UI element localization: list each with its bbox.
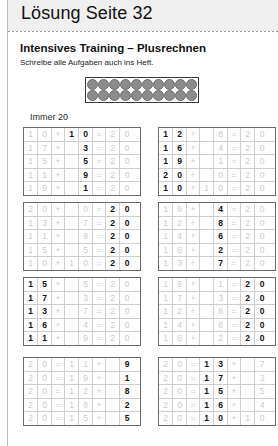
digit-cell: 6	[173, 203, 187, 216]
digit-cell: 2	[24, 399, 38, 412]
operator-cell: =	[187, 399, 200, 412]
digit-cell: 4	[255, 399, 269, 412]
task-grid-6: 19+1=2017+3=2012+8=2014+6=2018+2=20	[158, 277, 276, 346]
header-divider	[8, 31, 278, 32]
operator-cell: +	[187, 128, 200, 141]
operator-cell: +	[187, 203, 200, 216]
page-header: Lösung Seite 32	[8, 0, 278, 31]
digit-cell: 8	[214, 305, 228, 318]
digit-cell: 2	[241, 257, 255, 270]
digit-cell: 7	[79, 217, 93, 230]
digit-cell	[241, 399, 255, 412]
operator-cell: +	[52, 305, 65, 318]
operator-cell: =	[187, 385, 200, 398]
digit-cell: 3	[214, 292, 228, 305]
digit-cell	[65, 142, 79, 155]
digit-cell: 2	[214, 244, 228, 257]
digit-cell: 1	[159, 182, 173, 195]
digit-cell: 0	[120, 292, 134, 305]
digit-cell: 7	[38, 292, 52, 305]
digit-cell: 1	[159, 319, 173, 332]
digit-cell: 2	[159, 399, 173, 412]
digit-cell: 2	[106, 292, 120, 305]
table-row: 17+3=20	[24, 291, 140, 305]
digit-cell: 6	[38, 319, 52, 332]
table-row: 19+1=20	[24, 181, 140, 195]
digit-cell: 2	[106, 142, 120, 155]
operator-cell: =	[228, 257, 241, 270]
operator-cell: =	[52, 399, 65, 412]
operator-cell: =	[228, 292, 241, 305]
task-grid-7: 20=11+920=19+120=12+820=18+220=15+5	[23, 357, 141, 426]
digit-cell: 8	[173, 332, 187, 345]
digit-cell: 2	[106, 155, 120, 168]
digit-cell: 1	[24, 292, 38, 305]
digit-cell: 1	[159, 128, 173, 141]
digit-cell	[200, 305, 214, 318]
task-grid-1: 10+10=2017+3=2015+5=2011+9=2019+1=20	[23, 127, 141, 196]
digit-cell: 2	[241, 142, 255, 155]
digit-cell: 1	[24, 128, 38, 141]
digit-cell: 1	[159, 230, 173, 243]
operator-cell: +	[187, 244, 200, 257]
digit-cell: 2	[79, 385, 93, 398]
digit-cell: 2	[173, 217, 187, 230]
worksheet-subtitle: Intensives Training – Plusrechnen	[20, 42, 206, 54]
table-row: 18+2=20	[159, 243, 275, 257]
operator-cell: +	[52, 155, 65, 168]
table-row: 15+5=20	[24, 243, 140, 257]
digit-cell: 2	[106, 319, 120, 332]
table-row: 17+3=20	[159, 291, 275, 305]
digit-cell	[200, 332, 214, 345]
operator-cell: =	[93, 332, 106, 345]
digit-cell: 3	[173, 257, 187, 270]
digit-cell: 2	[241, 292, 255, 305]
digit-cell: 4	[79, 319, 93, 332]
digit-cell: 0	[173, 412, 187, 425]
digit-cell	[65, 155, 79, 168]
digit-cell: 2	[106, 305, 120, 318]
digit-cell: 8	[214, 128, 228, 141]
digit-cell: 1	[159, 155, 173, 168]
table-row: 20=17+3	[159, 371, 275, 385]
counter-dot-icon	[142, 90, 153, 101]
digit-cell: 2	[24, 372, 38, 385]
operator-cell: +	[187, 217, 200, 230]
table-row: 15+5=20	[24, 278, 140, 291]
operator-cell: =	[228, 319, 241, 332]
counter-dot-icon	[98, 79, 109, 90]
digit-cell: 4	[214, 142, 228, 155]
digit-cell: 1	[24, 332, 38, 345]
digit-cell: 3	[38, 217, 52, 230]
operator-cell: +	[52, 169, 65, 182]
table-row: 12+8=20	[159, 128, 275, 141]
digit-cell: 9	[79, 372, 93, 385]
digit-cell: 2	[120, 399, 134, 412]
digit-cell: 0	[120, 142, 134, 155]
counter-dot-icon	[153, 90, 164, 101]
digit-cell: 2	[241, 203, 255, 216]
digit-cell: 0	[38, 128, 52, 141]
operator-cell: =	[93, 142, 106, 155]
digit-cell: 5	[38, 278, 52, 291]
digit-cell: 6	[214, 230, 228, 243]
page-title: Lösung Seite 32	[21, 3, 153, 24]
counter-dot-icon	[87, 79, 98, 90]
digit-cell: 1	[159, 244, 173, 257]
digit-cell: 0	[173, 385, 187, 398]
counter-dot-icon	[164, 79, 175, 90]
table-row: 16+4=20	[24, 318, 140, 332]
digit-cell: 1	[65, 399, 79, 412]
digit-cell: 2	[24, 358, 38, 371]
digit-cell: 1	[159, 292, 173, 305]
operator-cell: =	[93, 182, 106, 195]
table-row: 18+2=20	[159, 331, 275, 345]
operator-cell: =	[93, 292, 106, 305]
counter-dot-icon	[131, 90, 142, 101]
operator-cell: =	[187, 358, 200, 371]
digit-cell: 2	[241, 230, 255, 243]
digit-cell: 2	[159, 169, 173, 182]
operator-cell: +	[52, 319, 65, 332]
operator-cell: +	[187, 332, 200, 345]
digit-cell	[65, 203, 79, 216]
